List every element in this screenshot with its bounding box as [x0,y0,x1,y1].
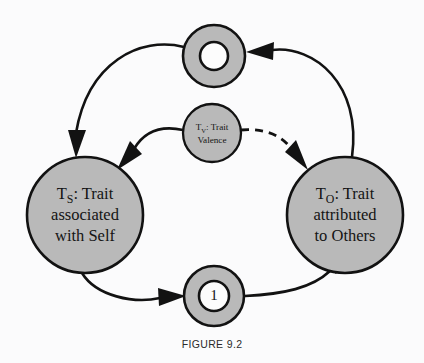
edge-trait-others-to-top-ring [246,42,353,157]
edge-trait-valence-to-trait-others [241,130,308,170]
top-ring-node[interactable] [183,25,245,87]
edge-path [82,273,160,300]
trait-valence-line1-rest: : Trait [206,122,229,132]
trait-valence-node[interactable]: TV: Trait Valence [183,104,241,162]
trait-others-label-line2: attributed [313,205,377,224]
diagram-canvas: 1 TS: Trait associated with Self TO: Tra… [0,0,424,363]
edge-top-ring-to-trait-self [68,45,184,158]
edge-path [134,128,183,149]
trait-self-node[interactable]: TS: Trait associated with Self [27,157,143,273]
arrow-head-icon [158,288,186,306]
edge-path [241,130,292,150]
edge-trait-valence-to-trait-self [117,128,183,170]
trait-self-line1-rest: : Trait [73,184,113,203]
trait-self-label-line2: associated [51,205,120,224]
edge-trait-self-to-bottom-ring [82,273,186,306]
trait-others-node[interactable]: TO: Trait attributed to Others [287,157,403,273]
arrow-head-icon [285,140,308,170]
bottom-ring-label: 1 [210,287,218,303]
trait-others-line1-rest: : Trait [334,184,374,203]
arrow-head-icon [68,130,86,158]
bottom-ring-node[interactable]: 1 [184,266,244,326]
trait-others-symbol: T [316,184,326,203]
arrow-head-icon [117,141,142,170]
trait-valence-label-line2: Valence [197,135,226,145]
trait-others-label-line3: to Others [315,226,376,245]
trait-self-label-line3: with Self [55,226,116,245]
edge-path [76,45,184,133]
arrow-head-icon [246,42,274,60]
trait-self-symbol: T [57,184,67,203]
figure-container: 1 TS: Trait associated with Self TO: Tra… [0,0,424,363]
edge-path [245,271,330,296]
top-ring-inner-hole [200,42,228,70]
figure-caption: FIGURE 9.2 [0,338,424,350]
trait-valence-circle [183,104,241,162]
